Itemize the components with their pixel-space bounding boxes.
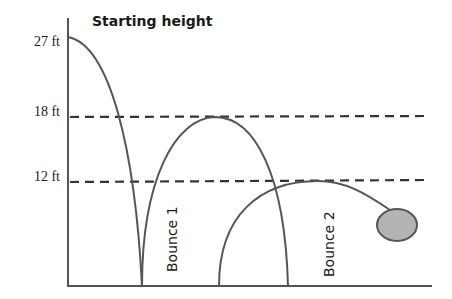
- y-label-12ft: 12 ft: [34, 169, 60, 184]
- starting-height-label: Starting height: [92, 13, 213, 29]
- bouncing-ball-diagram: Starting height 27 ft 18 ft 12 ft Bounce…: [0, 0, 452, 299]
- y-label-18ft: 18 ft: [34, 104, 60, 119]
- drop-curve: [68, 37, 142, 286]
- reference-line-18ft: [70, 116, 428, 117]
- bounce-2-label: Bounce 2: [321, 211, 337, 277]
- y-label-27ft: 27 ft: [34, 34, 60, 49]
- bounce-1-label: Bounce 1: [164, 206, 180, 272]
- ball: [377, 209, 417, 241]
- reference-line-12ft: [70, 180, 428, 182]
- bounce-2-curve: [219, 181, 390, 286]
